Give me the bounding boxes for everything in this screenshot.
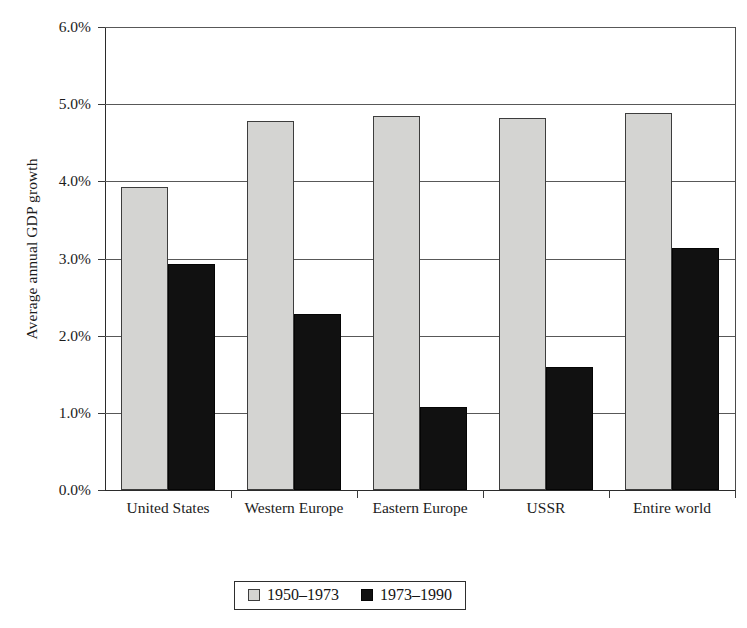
plot-right-border <box>735 27 736 490</box>
plot-area: 0.0%1.0%2.0%3.0%4.0%5.0%6.0% <box>105 27 735 490</box>
gridline-6.0% <box>105 27 735 28</box>
y-tick-mark <box>98 181 105 182</box>
y-tick-mark <box>98 27 105 28</box>
gridline-0.0% <box>105 490 735 491</box>
y-tick-mark <box>98 104 105 105</box>
y-tick-mark <box>98 490 105 491</box>
y-tick-mark <box>98 259 105 260</box>
chart-legend: 1950–19731973–1990 <box>234 581 466 610</box>
x-axis-label-united-states: United States <box>105 497 231 518</box>
y-tick-mark <box>98 336 105 337</box>
x-axis-label-entire-world: Entire world <box>609 497 735 518</box>
bar-entire-world-1973–1990 <box>672 248 719 490</box>
bar-eastern-europe-1950–1973 <box>373 116 420 490</box>
x-axis-label-eastern-europe: Eastern Europe <box>357 497 483 518</box>
bar-united-states-1950–1973 <box>121 187 168 490</box>
legend-label: 1973–1990 <box>380 586 452 604</box>
bar-united-states-1973–1990 <box>168 264 215 490</box>
bar-eastern-europe-1973–1990 <box>420 407 467 490</box>
x-axis-label-western-europe: Western Europe <box>231 497 357 518</box>
legend-swatch-icon <box>361 589 373 601</box>
legend-swatch-icon <box>248 589 260 601</box>
y-tick-label: 5.0% <box>0 95 91 113</box>
x-axis-label-ussr: USSR <box>483 497 609 518</box>
gridline-5.0% <box>105 104 735 105</box>
y-tick-label: 2.0% <box>0 327 91 345</box>
bar-western-europe-1950–1973 <box>247 121 294 490</box>
bar-entire-world-1950–1973 <box>625 113 672 490</box>
bar-ussr-1950–1973 <box>499 118 546 490</box>
y-tick-label: 3.0% <box>0 250 91 268</box>
y-tick-mark <box>98 413 105 414</box>
bar-chart: Average annual GDP growth 0.0%1.0%2.0%3.… <box>0 0 747 628</box>
legend-entry-1950–1973: 1950–1973 <box>248 586 339 604</box>
y-tick-label: 0.0% <box>0 481 91 499</box>
y-tick-label: 4.0% <box>0 172 91 190</box>
legend-entry-1973–1990: 1973–1990 <box>361 586 452 604</box>
x-tick-mark <box>735 490 736 498</box>
y-tick-label: 1.0% <box>0 404 91 422</box>
legend-label: 1950–1973 <box>267 586 339 604</box>
bar-ussr-1973–1990 <box>546 367 593 490</box>
y-tick-label: 6.0% <box>0 18 91 36</box>
bar-western-europe-1973–1990 <box>294 314 341 490</box>
